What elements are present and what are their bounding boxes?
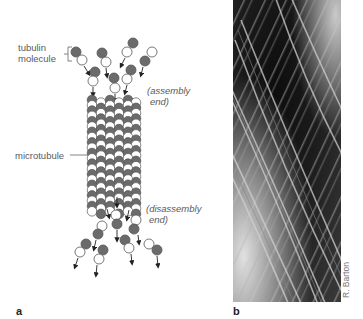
tubulin-label-line1: tubulin bbox=[18, 42, 46, 53]
microtubule-lattice bbox=[87, 95, 141, 219]
microtubule-label: microtubule bbox=[15, 150, 64, 161]
micrograph-image bbox=[233, 0, 341, 302]
assembly-end-label-line2: end) bbox=[150, 96, 169, 107]
tubulin-bracket bbox=[64, 47, 72, 61]
assembly-end-label-line1: (assembly bbox=[147, 85, 190, 96]
incoming-tubulin-dimers bbox=[71, 38, 157, 93]
disassembly-end-label-line1: (disassembly bbox=[146, 203, 201, 214]
disassembly-end-label-line2: end) bbox=[149, 214, 168, 225]
photo-credit: R. Barton bbox=[341, 262, 351, 298]
panel-a-label: a bbox=[16, 305, 22, 317]
panel-b-label: b bbox=[233, 305, 240, 317]
tubulin-label-line2: molecule bbox=[18, 53, 56, 64]
